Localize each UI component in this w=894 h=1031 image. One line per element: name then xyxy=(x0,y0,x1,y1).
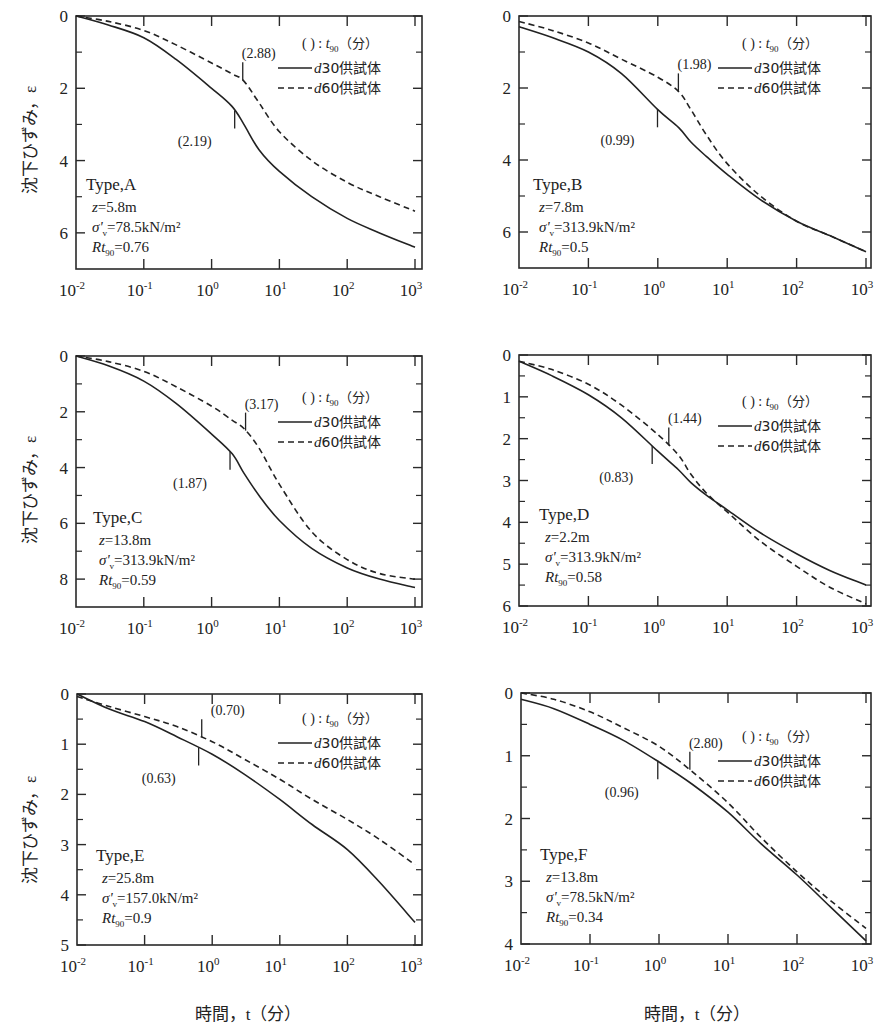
chart-panel-b: 10-210-11001011021030246(0.99)(1.98)( ) … xyxy=(502,7,874,299)
x-tick-label: 102 xyxy=(781,616,804,637)
x-tick-exponent: 2 xyxy=(349,955,355,967)
x-tick-exponent: 1 xyxy=(282,955,288,967)
panel-type-title: Type,D xyxy=(539,505,589,524)
x-tick-exponent: 3 xyxy=(417,955,423,967)
panel-rt90: Rt90=0.34 xyxy=(545,909,604,928)
panel-info: Type,Bz=7.8mσ'v=313.9kN/m²Rt90=0.5 xyxy=(533,175,635,258)
x-tick-label: 10-1 xyxy=(127,617,153,638)
panel-rt90: Rt90=0.76 xyxy=(91,239,150,258)
y-tick-label: 3 xyxy=(505,872,514,891)
t90-label-d60: (1.98) xyxy=(677,57,711,73)
x-tick-exponent: 0 xyxy=(660,616,666,628)
x-tick-exponent: 1 xyxy=(729,278,735,290)
legend-title: ( ) : t90（分） xyxy=(742,394,818,412)
x-tick-exponent: -2 xyxy=(76,617,85,629)
x-tick-exponent: 3 xyxy=(868,954,874,966)
x-tick-label: 101 xyxy=(264,279,287,300)
t90-label-d30: (0.63) xyxy=(142,771,176,787)
panel-rt90: Rt90=0.9 xyxy=(101,910,152,929)
y-tick-label: 0 xyxy=(503,346,512,365)
figure: 沈下ひずみ，ε 沈下ひずみ，ε 沈下ひずみ，ε 時間，t（分） 時間，t（分） … xyxy=(0,0,894,1031)
x-tick-exponent: -2 xyxy=(77,955,86,967)
y-tick-label: 2 xyxy=(503,430,512,449)
legend-title: ( ) : t90（分） xyxy=(742,729,818,747)
panel-stress: σ'v=313.9kN/m² xyxy=(539,219,635,238)
x-tick-label: 10-1 xyxy=(128,955,154,976)
x-tick-label: 101 xyxy=(712,616,735,637)
y-tick-label: 4 xyxy=(61,886,70,905)
plot-frame xyxy=(521,693,871,944)
panel-depth: z=13.8m xyxy=(98,532,152,548)
y-axis-label-row3: 沈下ひずみ，ε xyxy=(21,776,40,884)
panel-stress: σ'v=78.5kN/m² xyxy=(546,889,635,908)
y-tick-label: 0 xyxy=(61,685,70,704)
panel-info: Type,Dz=2.2mσ'v=313.9kN/m²Rt90=0.58 xyxy=(539,505,641,588)
x-tick-label: 100 xyxy=(643,616,666,637)
panel-stress: σ'v=313.9kN/m² xyxy=(99,552,195,571)
x-tick-label: 100 xyxy=(196,617,219,638)
chart-panel-f: 10-210-110010110210301234(0.96)(2.80)( )… xyxy=(504,684,874,975)
panel-depth: z=13.8m xyxy=(545,869,599,885)
legend-d30-label: d30供試体 xyxy=(754,753,821,769)
legend-d30-label: d30供試体 xyxy=(314,414,381,430)
y-tick-label: 1 xyxy=(505,747,514,766)
panel-type-title: Type,C xyxy=(93,508,142,527)
legend-title: ( ) : t90（分） xyxy=(302,36,378,54)
y-tick-label: 5 xyxy=(503,555,512,574)
y-tick-label: 8 xyxy=(60,570,69,589)
legend-d60-label: d60供試体 xyxy=(314,434,381,450)
x-tick-exponent: 1 xyxy=(730,954,736,966)
x-tick-label: 101 xyxy=(712,278,735,299)
y-tick-label: 0 xyxy=(503,7,512,26)
series-d30-line xyxy=(77,694,415,922)
x-tick-exponent: 3 xyxy=(417,279,423,291)
chart-panel-e: 10-210-1100101102103012345(0.63)(0.70)( … xyxy=(60,685,423,976)
x-tick-exponent: -1 xyxy=(590,954,599,966)
x-tick-exponent: 0 xyxy=(213,617,219,629)
y-tick-label: 1 xyxy=(503,388,512,407)
panel-info: Type,Ez=25.8mσ'v=157.0kN/m²Rt90=0.9 xyxy=(96,846,198,929)
x-tick-label: 10-1 xyxy=(571,278,597,299)
x-tick-label: 102 xyxy=(332,617,355,638)
y-axis-label-row1: 沈下ひずみ，ε xyxy=(21,86,40,194)
t90-label-d60: (0.70) xyxy=(211,703,245,719)
legend: ( ) : t90（分）d30供試体d60供試体 xyxy=(278,390,381,450)
legend: ( ) : t90（分）d30供試体d60供試体 xyxy=(718,36,821,96)
x-tick-label: 10-2 xyxy=(504,954,530,975)
x-tick-exponent: 2 xyxy=(349,279,355,291)
y-tick-label: 5 xyxy=(61,936,70,955)
chart-panel-d: 10-210-11001011021030123456(0.83)(1.44)(… xyxy=(502,346,874,637)
legend-d60-label: d60供試体 xyxy=(754,773,821,789)
y-axis-label-row2: 沈下ひずみ，ε xyxy=(21,436,40,544)
x-tick-label: 100 xyxy=(644,954,667,975)
y-tick-label: 4 xyxy=(503,513,512,532)
t90-label-d60: (3.17) xyxy=(245,397,279,413)
x-tick-label: 102 xyxy=(782,954,805,975)
y-tick-label: 2 xyxy=(61,785,70,804)
panel-rt90: Rt90=0.59 xyxy=(98,572,156,591)
t90-label-d60: (1.44) xyxy=(668,411,702,427)
y-tick-label: 3 xyxy=(503,472,512,491)
y-tick-label: 0 xyxy=(60,7,69,26)
panel-rt90: Rt90=0.58 xyxy=(544,569,602,588)
t90-label-d30: (1.87) xyxy=(173,476,207,492)
x-tick-exponent: -2 xyxy=(519,278,528,290)
x-tick-exponent: 1 xyxy=(729,616,735,628)
legend-title: ( ) : t90（分） xyxy=(302,390,378,408)
x-tick-label: 10-2 xyxy=(502,616,528,637)
x-axis-label-right: 時間，t（分） xyxy=(644,1005,751,1024)
x-tick-label: 103 xyxy=(400,279,423,300)
legend: ( ) : t90（分）d30供試体d60供試体 xyxy=(278,711,381,771)
panel-type-title: Type,A xyxy=(86,175,137,194)
panel-depth: z=7.8m xyxy=(538,199,584,215)
x-tick-label: 103 xyxy=(851,278,874,299)
x-tick-exponent: 3 xyxy=(868,278,874,290)
panel-info: Type,Az=5.8mσ'v=78.5kN/m²Rt90=0.76 xyxy=(86,175,181,258)
x-tick-label: 10-1 xyxy=(571,616,597,637)
legend-d60-label: d60供試体 xyxy=(314,80,381,96)
legend-d30-label: d30供試体 xyxy=(314,735,381,751)
x-tick-label: 102 xyxy=(781,278,804,299)
panel-type-title: Type,F xyxy=(540,845,587,864)
y-tick-label: 6 xyxy=(60,224,69,243)
x-tick-exponent: -1 xyxy=(144,617,153,629)
